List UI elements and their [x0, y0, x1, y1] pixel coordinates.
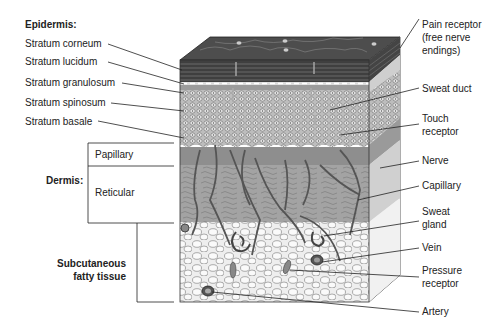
label-stratum-spinosum: Stratum spinosum — [25, 97, 106, 109]
label-vein: Vein — [422, 242, 441, 254]
skin-cross-section-diagram — [0, 0, 494, 334]
label-pain-receptor-1: Pain receptor — [422, 19, 481, 31]
block-right-face — [369, 37, 400, 302]
capillary-cross-section — [181, 224, 189, 232]
label-pressure-receptor-2: receptor — [422, 278, 459, 290]
label-stratum-basale: Stratum basale — [25, 116, 92, 128]
label-stratum-corneum: Stratum corneum — [25, 38, 102, 50]
dermis-heading: Dermis: — [46, 175, 83, 187]
label-pressure-receptor-1: Pressure — [422, 265, 462, 277]
label-touch-receptor-1: Touch — [422, 113, 449, 125]
label-pain-receptor-3: endings) — [422, 45, 460, 57]
label-sweat-duct: Sweat duct — [422, 83, 471, 95]
label-sweat-gland-1: Sweat — [422, 206, 450, 218]
stratum-granulosum-layer — [180, 85, 369, 90]
label-reticular: Reticular — [95, 187, 134, 199]
reticular-dermis-layer — [180, 165, 369, 222]
label-stratum-lucidum: Stratum lucidum — [25, 56, 97, 68]
pressure-receptor — [230, 262, 236, 278]
label-pain-receptor-2: (free nerve — [422, 32, 470, 44]
label-sweat-gland-2: gland — [422, 219, 446, 231]
label-stratum-granulosum: Stratum granulosum — [25, 77, 115, 89]
epidermis-heading: Epidermis: — [25, 19, 77, 31]
stratum-spinosum-layer — [180, 90, 369, 145]
label-artery: Artery — [422, 306, 449, 318]
label-papillary: Papillary — [95, 149, 133, 161]
label-touch-receptor-2: receptor — [422, 126, 459, 138]
label-nerve: Nerve — [422, 155, 449, 167]
skin-surface-top-face — [180, 37, 400, 60]
block-front-face — [180, 60, 369, 302]
subcutaneous-heading-line2: fatty tissue — [50, 271, 126, 283]
label-capillary: Capillary — [422, 180, 461, 192]
stratum-corneum-layer — [180, 60, 369, 82]
subcutaneous-heading-line1: Subcutaneous — [50, 258, 126, 270]
